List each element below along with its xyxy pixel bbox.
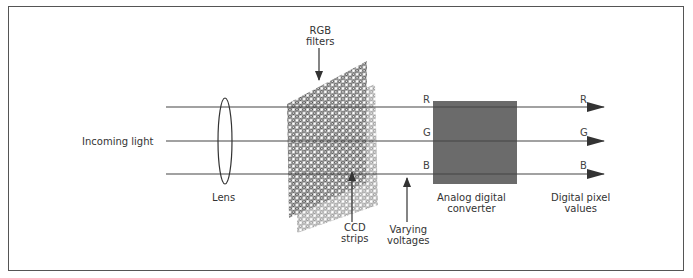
rgb-filter-mesh bbox=[287, 61, 378, 233]
ccd-strips-label-line2: strips bbox=[341, 233, 369, 244]
lens-label: Lens bbox=[212, 192, 235, 203]
varying-voltages-label-line2: voltages bbox=[387, 235, 430, 246]
channel-in-b: B bbox=[423, 161, 430, 171]
varying-voltages-label: Varying voltages bbox=[387, 224, 430, 246]
incoming-light-label: Incoming light bbox=[82, 136, 153, 147]
channel-out-g: G bbox=[580, 128, 588, 138]
ccd-strips-label: CCD strips bbox=[341, 222, 369, 244]
channel-out-b: B bbox=[580, 161, 587, 171]
rgb-filters-label-line1: RGB bbox=[306, 25, 334, 36]
rgb-filters-label-line2: filters bbox=[306, 36, 334, 47]
rgb-filters-label: RGB filters bbox=[306, 25, 334, 47]
digital-pixel-values-label: Digital pixel values bbox=[551, 192, 610, 214]
analog-digital-converter-block bbox=[433, 101, 517, 184]
channel-in-g: G bbox=[423, 128, 431, 138]
ccd-strips-label-line1: CCD bbox=[341, 222, 369, 233]
output-label-line1: Digital pixel bbox=[551, 192, 610, 203]
output-label-line2: values bbox=[551, 203, 610, 214]
channel-in-r: R bbox=[423, 95, 430, 105]
channel-out-r: R bbox=[580, 95, 587, 105]
adc-label-line1: Analog digital bbox=[437, 192, 506, 203]
varying-voltages-label-line1: Varying bbox=[387, 224, 430, 235]
adc-label-line2: converter bbox=[437, 203, 506, 214]
analog-digital-converter-label: Analog digital converter bbox=[437, 192, 506, 214]
